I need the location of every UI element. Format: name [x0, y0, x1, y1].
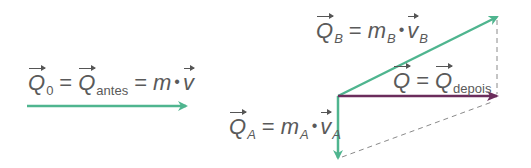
vector-q-symbol: Q — [393, 70, 410, 92]
velocity-subscript: A — [332, 127, 341, 142]
equals-sign: = — [59, 70, 72, 95]
qdepois-subscript: depois — [453, 81, 491, 96]
velocity-symbol: v — [407, 20, 418, 42]
qa-subscript: A — [247, 127, 256, 142]
equals-sign: = — [134, 70, 147, 95]
vector-qdepois-symbol: Q — [435, 70, 452, 92]
dot-operator: • — [399, 21, 405, 38]
label-qa-equation: QA=mA•vA — [229, 116, 341, 141]
dot-operator: • — [312, 117, 318, 134]
label-qb-equation: QB=mB•vB — [316, 20, 428, 45]
vector-qa-symbol: Q — [229, 116, 246, 138]
vector-qb-symbol: Q — [316, 20, 333, 42]
label-q0-equation: Q0=Qantes=m•v — [28, 72, 194, 97]
q0-subscript: 0 — [46, 83, 53, 98]
mass-subscript: B — [387, 31, 396, 46]
label-qdepois-equation: Q=Qdepois — [393, 70, 491, 95]
qb-subscript: B — [334, 31, 343, 46]
equals-sign: = — [262, 114, 275, 139]
mass-symbol: m — [153, 70, 171, 95]
mass-symbol: m — [368, 18, 386, 43]
equals-sign: = — [416, 68, 429, 93]
mass-subscript: A — [300, 127, 309, 142]
vector-q0-symbol: Q — [28, 72, 45, 94]
vector-qantes-symbol: Q — [78, 72, 95, 94]
velocity-symbol: v — [183, 72, 194, 94]
qantes-subscript: antes — [96, 83, 128, 98]
velocity-subscript: B — [419, 31, 428, 46]
dashed-line-diagonal — [342, 102, 492, 157]
velocity-symbol: v — [320, 116, 331, 138]
equals-sign: = — [349, 18, 362, 43]
mass-symbol: m — [281, 114, 299, 139]
dot-operator: • — [174, 73, 180, 90]
